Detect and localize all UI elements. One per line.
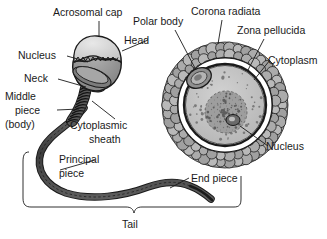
label-principal-piece-line1: Principal xyxy=(59,153,99,165)
diagram-canvas: Acrosomal cap Head Nucleus Neck Middle p… xyxy=(0,0,327,239)
label-cytoplasmic-sheath-line2: sheath xyxy=(89,133,121,145)
label-polar-body: Polar body xyxy=(133,15,184,27)
label-corona-radiata: Corona radiata xyxy=(191,5,261,17)
label-cytoplasmic-sheath-line1: Cytoplasmic xyxy=(70,119,127,131)
label-end-piece: End piece xyxy=(191,172,238,184)
label-middle-piece-line2: piece xyxy=(15,104,40,116)
label-tail: Tail xyxy=(122,218,138,230)
label-principal-piece-line2: piece xyxy=(59,167,84,179)
label-neck: Neck xyxy=(24,72,49,84)
label-zona-pellucida: Zona pellucida xyxy=(237,24,305,36)
label-head: Head xyxy=(124,34,149,46)
label-middle-piece-line3: (body) xyxy=(5,118,35,130)
label-nucleus-ovum: Nucleus xyxy=(266,140,304,152)
sperm-and-ovum-diagram: Acrosomal cap Head Nucleus Neck Middle p… xyxy=(0,0,327,239)
label-middle-piece-line1: Middle xyxy=(5,90,36,102)
label-acrosomal-cap: Acrosomal cap xyxy=(53,6,123,18)
label-nucleus-sperm: Nucleus xyxy=(18,49,56,61)
label-cytoplasm: Cytoplasm xyxy=(268,54,318,66)
